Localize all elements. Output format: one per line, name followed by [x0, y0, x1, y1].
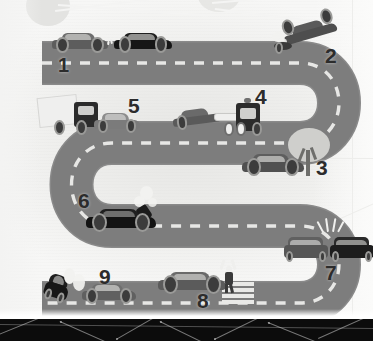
wheel-left: [286, 251, 293, 262]
wheel-rear: [56, 292, 66, 304]
tree-trunk: [306, 150, 310, 176]
network-line: [0, 319, 61, 336]
wheel-front: [92, 213, 107, 232]
car-striking: [158, 270, 226, 294]
wheel-rear: [285, 158, 299, 176]
network-line: [0, 324, 373, 329]
car-broken-down: [86, 206, 156, 232]
pedestrian-leg-left: [225, 284, 228, 293]
wheel-truck-rear: [54, 123, 66, 135]
scene-label-5: 5: [128, 95, 140, 116]
car-following: [114, 31, 172, 53]
scene-9-overturned-vehicle: [46, 268, 138, 310]
car-lead: [52, 31, 108, 53]
pedestrian-arm-left: [219, 259, 225, 270]
network-line: [318, 319, 371, 339]
car-right-frontview: [330, 234, 373, 262]
scene-7-head-on-collision: [284, 228, 372, 264]
network-line: [160, 321, 213, 341]
scene-6-engine-breakdown: [86, 192, 172, 234]
illustration-canvas: 1 2: [0, 0, 373, 341]
pedestrian-leg-right: [229, 284, 234, 293]
network-node: [214, 338, 216, 340]
scene-label-1: 1: [58, 55, 69, 75]
wheel-front: [56, 37, 68, 53]
wheel-tyre: [54, 120, 65, 135]
network-node: [160, 321, 162, 323]
scene-1-rear-end-collision: [52, 27, 172, 53]
scene-label-9: 9: [99, 266, 111, 287]
wheel-detached: [274, 42, 292, 54]
wheel-front: [247, 158, 261, 176]
wheel-rear: [126, 119, 136, 133]
tow-truck-windshield: [240, 108, 256, 119]
wheel-tyre: [76, 120, 87, 135]
scene-label-4: 4: [255, 86, 267, 107]
scene-5-truck-car-collision: [38, 95, 140, 143]
wheel-front: [119, 36, 132, 53]
wheel-rear: [135, 213, 150, 232]
wheel-front: [98, 119, 108, 133]
wheel-right: [365, 251, 372, 262]
wheel-tyre: [275, 42, 283, 54]
network-line: [268, 322, 320, 341]
network-node: [60, 321, 62, 323]
wheel-front: [86, 288, 98, 304]
network-node: [268, 322, 270, 324]
car-left-frontview: [284, 234, 328, 262]
truck-windshield: [78, 106, 94, 115]
scene-label-3: 3: [316, 157, 328, 178]
network-line: [214, 319, 270, 340]
scene-label-2: 2: [325, 45, 337, 66]
scene-label-8: 8: [197, 290, 209, 311]
wheel-tow-rear: [224, 125, 235, 136]
bottom-dark-band: [0, 319, 373, 341]
car-crashed: [242, 152, 304, 176]
wheel-rear: [120, 288, 132, 304]
bottom-highlight: [0, 309, 373, 319]
wheel-rear: [91, 37, 103, 53]
scene-label-6: 6: [78, 190, 90, 211]
wheel-rear: [155, 36, 168, 53]
pedestrian: [220, 258, 238, 292]
network-node: [116, 338, 118, 340]
wheel-tyre: [224, 122, 234, 136]
scene-label-7: 7: [325, 262, 337, 283]
wheel-front: [163, 275, 178, 294]
tow-truck-beacon: [244, 98, 251, 103]
wheel-truck-front: [76, 123, 88, 135]
network-line: [116, 319, 162, 340]
